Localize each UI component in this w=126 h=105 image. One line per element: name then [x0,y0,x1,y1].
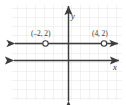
coordinate-plane-figure: (–2, 2) (4, 2) y x [0,0,126,105]
point-label-right: (4, 2) [92,29,108,38]
grid-lines [12,5,122,100]
data-point-right [101,41,106,46]
graph-canvas [0,0,126,105]
data-point-left [43,41,48,46]
x-axis-label: x [113,62,117,72]
point-label-left: (–2, 2) [31,29,50,38]
y-axis-label: y [71,11,75,21]
